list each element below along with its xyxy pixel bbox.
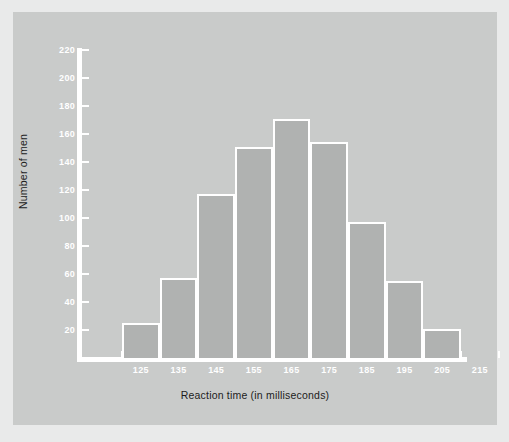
histogram-bar xyxy=(348,222,386,358)
y-tick-mark xyxy=(82,301,89,303)
y-tick-mark xyxy=(82,217,89,219)
x-tick-mark xyxy=(498,351,500,358)
histogram-bar xyxy=(160,278,198,358)
histogram-bar xyxy=(310,142,348,358)
y-axis-line xyxy=(77,48,82,362)
x-tick-label: 165 xyxy=(284,365,300,375)
y-tick-label: 200 xyxy=(59,73,75,83)
y-tick-mark xyxy=(82,49,89,51)
x-tick-label: 155 xyxy=(246,365,262,375)
x-tick-label: 195 xyxy=(397,365,413,375)
histogram-bar xyxy=(197,194,235,358)
y-tick-label: 120 xyxy=(59,185,75,195)
x-tick-mark xyxy=(121,351,123,358)
x-tick-label: 135 xyxy=(171,365,187,375)
x-tick-mark xyxy=(159,351,161,358)
histogram-bar xyxy=(122,323,160,358)
x-tick-mark xyxy=(272,351,274,358)
y-tick-label: 220 xyxy=(59,45,75,55)
y-tick-mark xyxy=(82,245,89,247)
x-tick-label: 215 xyxy=(472,365,488,375)
x-tick-mark xyxy=(196,351,198,358)
x-tick-mark xyxy=(385,351,387,358)
y-tick-mark xyxy=(82,133,89,135)
histogram-bar xyxy=(235,147,273,358)
y-tick-mark xyxy=(82,189,89,191)
chart-figure: Number of men 20406080100120140160180200… xyxy=(13,12,497,425)
y-tick-mark xyxy=(82,105,89,107)
x-tick-mark xyxy=(460,351,462,358)
histogram-bar xyxy=(386,281,424,358)
y-tick-label: 180 xyxy=(59,101,75,111)
x-tick-label: 185 xyxy=(359,365,375,375)
y-tick-label: 80 xyxy=(64,241,75,251)
y-tick-label: 140 xyxy=(59,157,75,167)
y-tick-label: 20 xyxy=(64,325,75,335)
y-tick-label: 60 xyxy=(64,269,75,279)
x-tick-label: 125 xyxy=(133,365,149,375)
x-tick-mark xyxy=(347,351,349,358)
x-tick-label: 175 xyxy=(321,365,337,375)
y-tick-mark xyxy=(82,329,89,331)
y-tick-label: 160 xyxy=(59,129,75,139)
x-axis-title: Reaction time (in milliseconds) xyxy=(13,389,497,401)
x-tick-mark xyxy=(234,351,236,358)
y-tick-mark xyxy=(82,273,89,275)
x-tick-label: 205 xyxy=(434,365,450,375)
x-tick-mark xyxy=(309,351,311,358)
histogram-bar xyxy=(423,329,461,358)
x-tick-label: 145 xyxy=(208,365,224,375)
y-tick-mark xyxy=(82,161,89,163)
histogram-bar xyxy=(273,119,311,358)
y-tick-mark xyxy=(82,77,89,79)
x-tick-mark xyxy=(422,351,424,358)
y-tick-label: 40 xyxy=(64,297,75,307)
y-axis-title: Number of men xyxy=(17,134,29,209)
y-tick-label: 100 xyxy=(59,213,75,223)
